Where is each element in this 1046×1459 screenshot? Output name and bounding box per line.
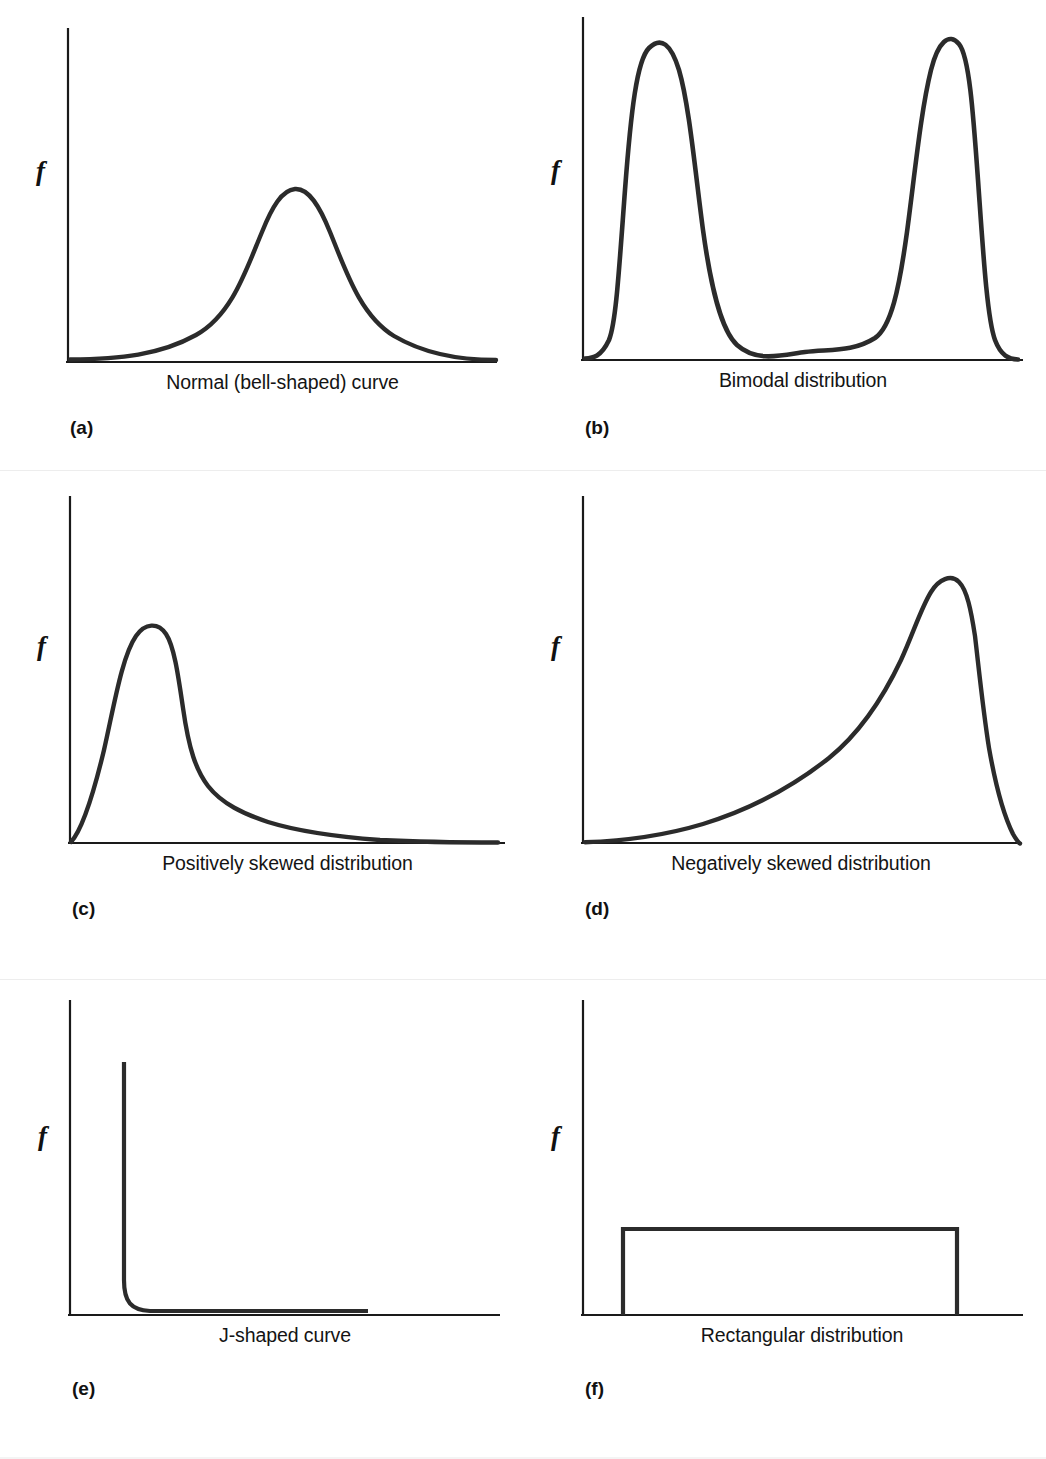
bimodal-curve-path (585, 39, 1018, 359)
panel-b-bimodal: f Bimodal distribution (b) (523, 0, 1046, 470)
normal-curve-path (70, 189, 496, 360)
row-divider-1 (0, 470, 1046, 471)
panel-d-negative-skew: f Negatively skewed distribution (d) (523, 470, 1046, 980)
panel-f-caption: Rectangular distribution (581, 1324, 1023, 1347)
panel-b-letter: (b) (585, 417, 609, 439)
panel-e-j-shaped: f J-shaped curve (e) (0, 980, 523, 1459)
negative-skew-curve-path (585, 578, 1020, 843)
y-axis-label-f: f (37, 633, 46, 660)
panel-b-caption: Bimodal distribution (583, 369, 1023, 392)
panel-c-caption: Positively skewed distribution (70, 852, 505, 875)
y-axis-label-f: f (551, 157, 560, 184)
panel-b-plot (523, 0, 1046, 470)
y-axis-label-f: f (551, 1123, 560, 1150)
panel-c-positive-skew: f Positively skewed distribution (c) (0, 470, 523, 980)
panel-a-caption: Normal (bell-shaped) curve (68, 371, 497, 394)
distribution-shapes-figure: f Normal (bell-shaped) curve (a) f Bimod… (0, 0, 1046, 1459)
panel-a-plot (0, 0, 523, 470)
rectangular-distribution-path (623, 1229, 957, 1315)
positive-skew-curve-path (71, 626, 498, 843)
panel-e-letter: (e) (72, 1378, 95, 1400)
j-shaped-curve-path (124, 1062, 368, 1311)
y-axis-label-f: f (551, 633, 560, 660)
panel-a-normal-curve: f Normal (bell-shaped) curve (a) (0, 0, 523, 470)
panel-d-caption: Negatively skewed distribution (581, 852, 1021, 875)
panel-c-letter: (c) (72, 898, 95, 920)
panel-a-letter: (a) (70, 417, 93, 439)
y-axis-label-f: f (38, 1123, 47, 1150)
panel-e-caption: J-shaped curve (70, 1324, 500, 1347)
panel-f-rectangular: f Rectangular distribution (f) (523, 980, 1046, 1459)
panel-f-letter: (f) (585, 1378, 604, 1400)
panel-d-letter: (d) (585, 898, 609, 920)
y-axis-label-f: f (36, 158, 45, 185)
row-divider-2 (0, 979, 1046, 980)
